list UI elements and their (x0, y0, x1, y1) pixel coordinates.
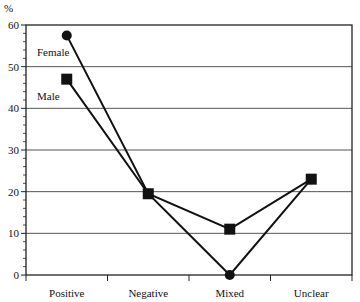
y-tick-label: 10 (8, 227, 20, 239)
circle-marker-icon (225, 270, 235, 280)
y-axis-label: % (4, 2, 13, 14)
label-male: Male (37, 90, 60, 102)
chart-canvas: 0102030405060 PositiveNegativeMixedUncle… (0, 0, 360, 302)
x-tick-label: Positive (49, 287, 85, 299)
square-marker-icon (143, 188, 154, 199)
y-tick-label: 30 (8, 144, 20, 156)
circle-marker-icon (62, 30, 72, 40)
square-marker-icon (306, 174, 317, 185)
series-line-male (67, 79, 312, 229)
square-marker-icon (61, 74, 72, 85)
y-axis: 0102030405060 (8, 19, 26, 281)
x-tick-label: Negative (128, 287, 168, 299)
y-tick-label: 60 (8, 19, 20, 31)
label-female: Female (37, 46, 69, 58)
y-tick-label: 40 (8, 102, 20, 114)
x-tick-label: Unclear (294, 287, 329, 299)
line-chart: 0102030405060 PositiveNegativeMixedUncle… (0, 0, 360, 302)
y-tick-label: 50 (8, 61, 20, 73)
data-series (61, 30, 317, 280)
y-tick-label: 20 (8, 186, 20, 198)
x-tick-label: Mixed (215, 287, 244, 299)
square-marker-icon (224, 224, 235, 235)
x-axis: PositiveNegativeMixedUnclear (26, 275, 352, 299)
series-line-female (67, 35, 312, 275)
y-tick-label: 0 (14, 269, 20, 281)
